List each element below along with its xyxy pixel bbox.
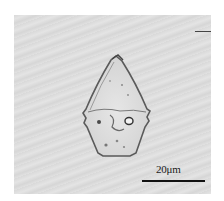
micrograph-panel xyxy=(14,15,211,194)
scale-bar xyxy=(142,180,205,182)
crystal-illustration xyxy=(14,15,211,194)
scale-bar-label: 20μm xyxy=(156,163,181,175)
edge-marker xyxy=(195,31,211,32)
